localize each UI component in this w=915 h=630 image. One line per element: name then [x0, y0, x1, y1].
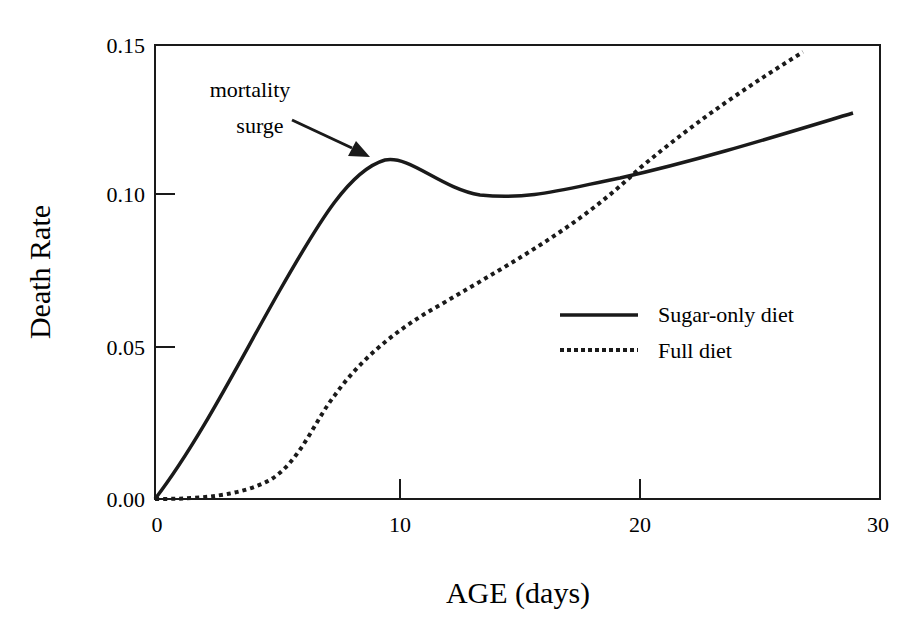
x-ticks [400, 479, 640, 499]
x-tick-label: 20 [629, 512, 651, 537]
y-tick-label: 0.00 [107, 487, 146, 512]
x-tick-label: 10 [389, 512, 411, 537]
annotation-label-line2: surge [236, 113, 283, 138]
y-axis-title: Death Rate [23, 205, 56, 339]
annotation-label-line1: mortality [210, 77, 291, 102]
y-tick-label: 0.05 [107, 335, 146, 360]
legend: Sugar-only diet Full diet [560, 302, 794, 363]
chart: 0.00 0.05 0.10 0.15 0 10 20 30 AGE (days… [0, 0, 915, 630]
x-tick-label: 0 [152, 512, 163, 537]
x-tick-label: 30 [867, 512, 889, 537]
legend-label-sugar-only: Sugar-only diet [658, 302, 794, 327]
x-axis-title: AGE (days) [446, 576, 590, 610]
legend-label-full-diet: Full diet [658, 338, 732, 363]
y-tick-label: 0.15 [107, 33, 146, 58]
annotation-arrow-icon [292, 120, 370, 157]
y-ticks [155, 194, 175, 347]
y-tick-label: 0.10 [107, 182, 146, 207]
